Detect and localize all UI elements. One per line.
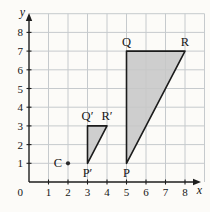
y-tick-label: 1 <box>18 157 24 169</box>
x-tick-label: 4 <box>104 186 110 198</box>
x-tick-label: 2 <box>65 186 71 198</box>
vertex-label-R: R <box>181 35 190 49</box>
x-tick-label: 6 <box>143 186 149 198</box>
coordinate-plane: 12345678123456780xyPQRP′Q′R′C <box>0 0 210 212</box>
vertex-label-R′: R′ <box>101 109 112 123</box>
x-tick-label: 1 <box>46 186 52 198</box>
y-axis-label: y <box>19 5 26 19</box>
origin-label: 0 <box>18 186 24 198</box>
vertex-label-Q′: Q′ <box>82 109 94 123</box>
x-tick-label: 8 <box>182 186 188 198</box>
x-tick-label: 5 <box>124 186 130 198</box>
vertex-label-Q: Q <box>122 35 131 49</box>
y-tick-label: 2 <box>18 139 24 151</box>
y-tick-label: 7 <box>18 45 24 57</box>
dilation-diagram: 12345678123456780xyPQRP′Q′R′C <box>0 0 210 212</box>
point-label-C: C <box>54 156 62 170</box>
y-tick-label: 8 <box>18 26 24 38</box>
point-C <box>66 161 70 165</box>
x-tick-label: 3 <box>85 186 91 198</box>
y-tick-label: 3 <box>18 120 24 132</box>
y-tick-label: 4 <box>18 101 24 113</box>
y-tick-label: 6 <box>18 64 24 76</box>
vertex-label-P′: P′ <box>83 166 93 180</box>
x-tick-label: 7 <box>163 186 169 198</box>
y-tick-label: 5 <box>18 83 24 95</box>
vertex-label-P: P <box>123 166 130 180</box>
x-axis-label: x <box>196 183 203 197</box>
